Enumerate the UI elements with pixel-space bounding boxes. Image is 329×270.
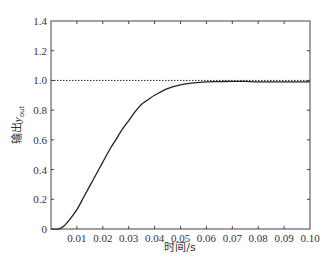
x-tick-label: 0.06	[197, 232, 217, 244]
axes-box	[51, 21, 310, 229]
y-axis-label: 输出yout	[10, 106, 26, 145]
y-tick-label: 0	[42, 223, 48, 235]
y-tick-label: 0.2	[33, 193, 47, 205]
x-tick-label: 0.07	[223, 232, 243, 244]
x-axis-label: 时间/s	[164, 241, 196, 254]
series-layer	[51, 80, 310, 229]
x-tick-label: 0.04	[145, 232, 165, 244]
x-tick-label: 0.09	[274, 232, 294, 244]
svg-text:输出yout: 输出yout	[10, 106, 26, 145]
x-tick-label: 0.03	[119, 232, 139, 244]
y-axis-label-main: 输出	[10, 122, 24, 144]
y-tick-label: 0.4	[33, 164, 47, 176]
x-tick-label: 0.02	[93, 232, 112, 244]
y-tick-label: 0.6	[33, 134, 47, 146]
y-tick-label: 1.4	[33, 15, 47, 27]
y-tick-label: 1.2	[33, 45, 47, 57]
y-axis-label-sub: out	[18, 106, 26, 118]
x-tick-label: 0.08	[249, 232, 269, 244]
y-tick-label: 1.0	[33, 74, 47, 86]
x-tick-label: 0.10	[300, 232, 320, 244]
x-tick-label: 0.01	[67, 232, 86, 244]
response-curve	[51, 81, 310, 229]
step-response-chart: 0.010.020.030.040.050.060.070.080.090.10…	[0, 0, 329, 270]
y-tick-label: 0.8	[33, 104, 47, 116]
